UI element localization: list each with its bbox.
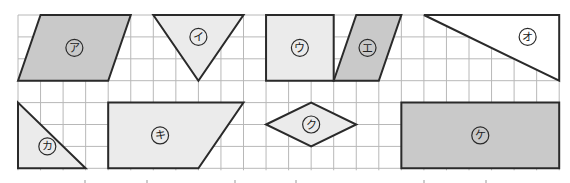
shapes-grid-diagram: アイウエオカキクケ <box>0 0 570 183</box>
shape-label: イ <box>193 31 204 44</box>
shape-ku-rhombus: ク <box>266 103 356 147</box>
shape-label: ク <box>306 119 317 132</box>
shape-ke-rectangle: ケ <box>401 103 559 169</box>
shape-label: ケ <box>475 129 486 142</box>
shape-label: ア <box>69 42 80 55</box>
shape-a-parallelogram: ア <box>18 15 131 81</box>
shape-label: キ <box>155 129 166 142</box>
shape-ki-trapezoid: キ <box>108 103 243 169</box>
shape-outline <box>108 103 243 169</box>
shape-u-square: ウ <box>266 15 334 81</box>
shape-ka-triangle: カ <box>18 103 86 169</box>
shape-label: エ <box>362 42 373 55</box>
shape-label: オ <box>522 31 533 44</box>
shape-e-parallelogram: エ <box>334 15 402 81</box>
shape-label: カ <box>42 140 53 153</box>
shape-outline <box>18 103 86 169</box>
shape-label: ウ <box>294 42 305 55</box>
shape-i-triangle: イ <box>153 15 243 81</box>
bottom-tick-marks <box>85 180 486 183</box>
shape-outline <box>153 15 243 81</box>
